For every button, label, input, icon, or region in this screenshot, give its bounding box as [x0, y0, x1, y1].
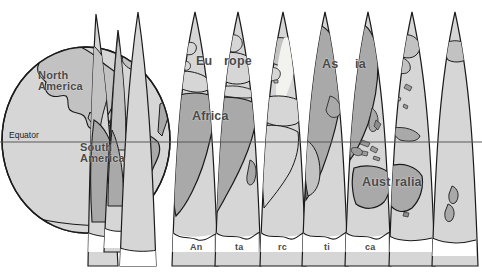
map-illustration [0, 0, 482, 272]
label-antarctica-part-3: rc [278, 243, 287, 252]
label-australia-part-1: Aust [362, 176, 391, 189]
label-africa: Africa [192, 110, 229, 123]
gore-5 [302, 12, 348, 266]
gore-3 [214, 12, 261, 266]
label-north-america: North America [38, 70, 83, 92]
gore-8 [432, 12, 478, 266]
label-antarctica-part-5: ca [365, 243, 375, 252]
gore-2 [172, 12, 218, 266]
gore-7 [389, 12, 436, 266]
label-europe-part-1: Eu [196, 55, 212, 68]
gore-map-figure: Equator North America South America Eu r… [0, 0, 482, 272]
label-asia-part-1: As [322, 58, 338, 71]
label-asia-part-2: ia [355, 58, 366, 71]
label-antarctica-part-1: An [190, 243, 202, 252]
label-antarctica-part-4: ti [324, 243, 330, 252]
gore-6 [345, 12, 391, 266]
label-europe-part-2: rope [224, 55, 252, 68]
label-australia-part-2: ralia [395, 176, 422, 189]
gore-4 [260, 12, 306, 266]
label-south-america: South America [80, 142, 125, 164]
label-antarctica-part-2: ta [235, 243, 243, 252]
equator-label: Equator [9, 130, 39, 140]
